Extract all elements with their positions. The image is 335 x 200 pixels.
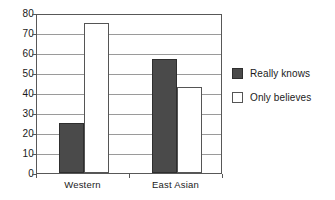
y-axis-tick-label: 0 — [4, 169, 34, 179]
x-axis-tick-mark — [129, 174, 130, 178]
legend-item: Really knows — [232, 61, 332, 85]
x-axis-tick-mark — [36, 174, 37, 178]
y-axis-tick-label: 10 — [4, 149, 34, 159]
x-axis-category-label: East Asian — [126, 179, 226, 190]
y-axis-tick-label: 60 — [4, 49, 34, 59]
gridline — [37, 34, 221, 35]
y-axis-labels: 01020304050607080 — [0, 0, 34, 200]
bar-western-only-believes — [84, 23, 109, 173]
y-axis-tick-label: 40 — [4, 89, 34, 99]
legend-item-label: Only believes — [250, 92, 311, 103]
gridline — [37, 74, 221, 75]
y-axis-tick-label: 30 — [4, 109, 34, 119]
plot-area — [36, 14, 222, 174]
bar-western-really-knows — [59, 123, 84, 173]
x-axis-tick-mark — [222, 174, 223, 178]
chart-figure: 01020304050607080 WesternEast Asian Real… — [0, 0, 335, 200]
x-axis-category-label: Western — [33, 179, 133, 190]
bar-east-asian-really-knows — [152, 59, 177, 173]
legend-swatch-icon — [232, 92, 243, 103]
y-axis-tick-label: 70 — [4, 29, 34, 39]
y-axis-tick-label: 80 — [4, 9, 34, 19]
chart-legend: Really knowsOnly believes — [232, 61, 332, 109]
bar-east-asian-only-believes — [177, 87, 202, 173]
legend-swatch-icon — [232, 68, 243, 79]
y-axis-tick-label: 20 — [4, 129, 34, 139]
legend-item-label: Really knows — [250, 68, 310, 79]
legend-item: Only believes — [232, 85, 332, 109]
gridline — [37, 54, 221, 55]
y-axis-tick-label: 50 — [4, 69, 34, 79]
